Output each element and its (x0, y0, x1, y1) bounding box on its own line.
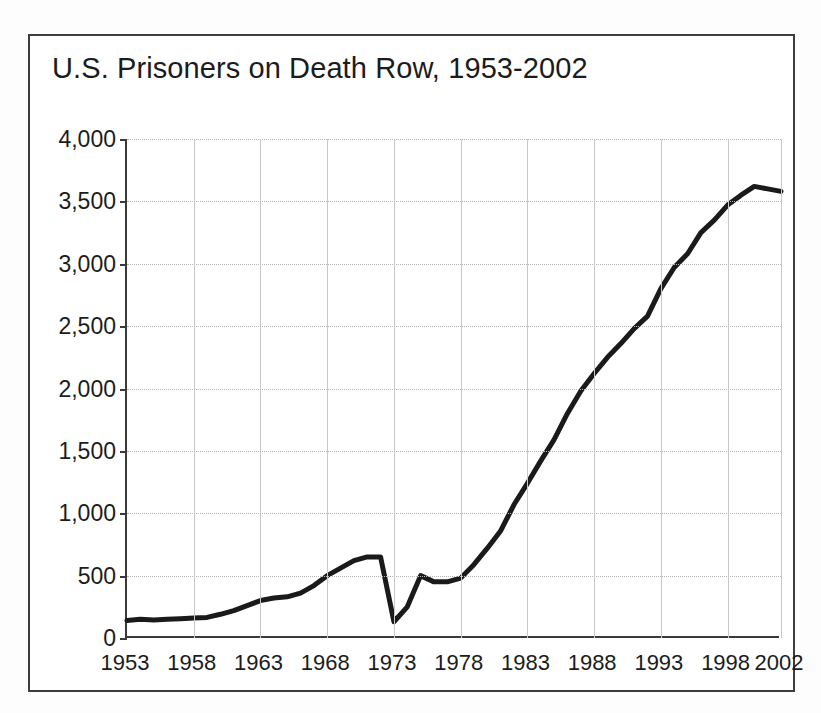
y-axis-labels: 05001,0001,5002,0002,5003,0003,5004,000 (28, 139, 116, 638)
y-tick-mark (120, 513, 127, 515)
y-tick-label: 500 (78, 565, 116, 588)
y-tick-mark (120, 264, 127, 266)
y-tick-label: 4,000 (58, 128, 116, 151)
x-axis-labels: 1953195819631968197319781983198819931998… (125, 652, 785, 686)
series-polyline (127, 186, 781, 621)
gridline-horizontal (127, 576, 781, 577)
y-tick-label: 1,500 (58, 440, 116, 463)
y-tick-label: 3,000 (58, 253, 116, 276)
y-tick-mark (120, 451, 127, 453)
y-tick-label: 2,000 (58, 378, 116, 401)
gridline-vertical (327, 139, 328, 638)
gridline-vertical (194, 139, 195, 638)
gridline-vertical (394, 139, 395, 638)
gridline-vertical (728, 139, 729, 638)
y-tick-mark (120, 576, 127, 578)
gridline-horizontal (127, 451, 781, 452)
x-tick-label: 1958 (167, 652, 216, 674)
chart-figure: U.S. Prisoners on Death Row, 1953-2002 0… (0, 0, 821, 713)
y-tick-label: 2,500 (58, 315, 116, 338)
gridline-horizontal (127, 326, 781, 327)
y-tick-mark (120, 638, 127, 640)
y-tick-mark (120, 389, 127, 391)
gridline-horizontal (127, 139, 781, 140)
gridline-horizontal (127, 513, 781, 514)
gridline-horizontal (127, 389, 781, 390)
gridline-vertical (527, 139, 528, 638)
x-tick-label: 1988 (568, 652, 617, 674)
gridline-vertical (260, 139, 261, 638)
x-tick-label: 2002 (755, 652, 804, 674)
x-tick-label: 1983 (501, 652, 550, 674)
gridline-vertical (594, 139, 595, 638)
gridline-vertical (781, 139, 782, 638)
gridline-horizontal (127, 201, 781, 202)
gridline-vertical (661, 139, 662, 638)
gridline-horizontal (127, 264, 781, 265)
x-tick-label: 1953 (101, 652, 150, 674)
y-tick-label: 3,500 (58, 190, 116, 213)
x-tick-label: 1963 (234, 652, 283, 674)
x-tick-label: 1993 (634, 652, 683, 674)
y-tick-mark (120, 201, 127, 203)
x-tick-label: 1973 (367, 652, 416, 674)
y-tick-mark (120, 326, 127, 328)
plot-area (125, 139, 779, 638)
y-tick-label: 1,000 (58, 502, 116, 525)
chart-title: U.S. Prisoners on Death Row, 1953-2002 (52, 52, 588, 85)
x-tick-label: 1998 (701, 652, 750, 674)
y-tick-label: 0 (103, 627, 116, 650)
y-tick-mark (120, 139, 127, 141)
x-tick-label: 1978 (434, 652, 483, 674)
x-tick-label: 1968 (301, 652, 350, 674)
gridline-vertical (461, 139, 462, 638)
